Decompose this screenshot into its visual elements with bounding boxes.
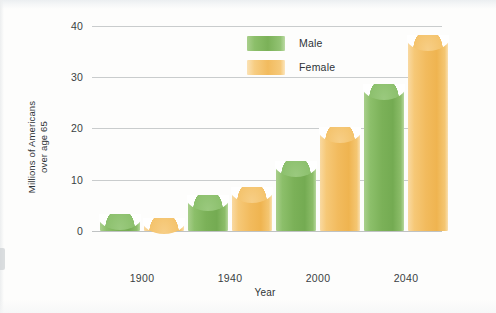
y-axis-label-line2: over age 65 <box>38 92 50 202</box>
bar-group-2040: 2040 <box>362 26 450 267</box>
bar-body <box>188 196 228 231</box>
female-swatch-icon <box>247 60 285 75</box>
y-tick-0: 0 <box>77 225 83 237</box>
bar-male-1900[interactable] <box>100 215 140 231</box>
y-axis-label: Millions of Americans over age 65 <box>26 92 50 202</box>
x-axis-label-text: Year <box>254 287 275 298</box>
scan-top-edge-artifact <box>0 0 496 9</box>
legend-label-female: Female <box>299 61 335 73</box>
y-tick-40: 40 <box>71 20 83 32</box>
bar-body <box>232 188 272 231</box>
x-tick-2040: 2040 <box>362 272 450 284</box>
bar-male-2040[interactable] <box>364 85 404 231</box>
bar-female-1940[interactable] <box>232 188 272 231</box>
bar-body <box>320 128 360 231</box>
chart-page: Millions of Americans over age 65 40 30 … <box>0 0 496 313</box>
bar-female-1900[interactable] <box>144 219 184 231</box>
bar-body <box>100 215 140 231</box>
scan-bottom-edge-artifact <box>0 299 496 313</box>
bar-female-2040[interactable] <box>408 36 448 231</box>
y-tick-20: 20 <box>71 122 83 134</box>
bar-male-2000[interactable] <box>276 162 316 231</box>
scan-left-margin-mark <box>0 248 5 270</box>
x-tick-1940: 1940 <box>186 272 274 284</box>
x-axis-label: Year <box>0 287 496 298</box>
male-swatch-icon <box>247 36 285 51</box>
bar-body <box>144 219 184 231</box>
bar-female-2000[interactable] <box>320 128 360 231</box>
legend-item-female[interactable]: Female <box>247 55 335 79</box>
bar-body <box>408 36 448 231</box>
x-tick-1900: 1900 <box>98 272 186 284</box>
legend-item-male[interactable]: Male <box>247 31 335 55</box>
bar-male-1940[interactable] <box>188 196 228 231</box>
bar-body <box>364 85 404 231</box>
y-axis-label-line1: Millions of Americans <box>26 101 37 193</box>
legend: Male Female <box>247 31 335 79</box>
x-tick-2000: 2000 <box>274 272 362 284</box>
y-tick-30: 30 <box>71 71 83 83</box>
bar-body <box>276 162 316 231</box>
y-tick-10: 10 <box>71 174 83 186</box>
legend-label-male: Male <box>299 37 323 49</box>
bar-group-1900: 1900 <box>98 26 186 267</box>
